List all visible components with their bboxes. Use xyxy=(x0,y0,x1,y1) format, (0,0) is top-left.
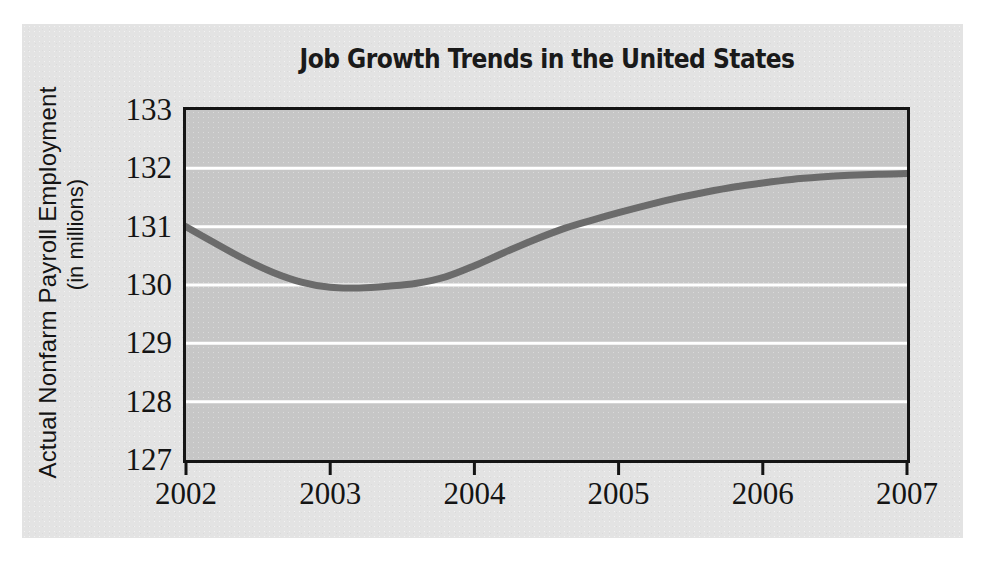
x-axis-tick-labels: 200220032004200520062007 xyxy=(0,0,985,563)
x-axis-tick-label: 2006 xyxy=(703,478,823,509)
x-axis-tick-label: 2007 xyxy=(847,478,967,509)
x-axis-tick-label: 2004 xyxy=(414,478,534,509)
x-axis-tick-label: 2003 xyxy=(270,478,390,509)
x-axis-tick-label: 2002 xyxy=(126,478,246,509)
scanned-chart-page: Job Growth Trends in the United States A… xyxy=(0,0,985,563)
x-axis-tick-label: 2005 xyxy=(559,478,679,509)
